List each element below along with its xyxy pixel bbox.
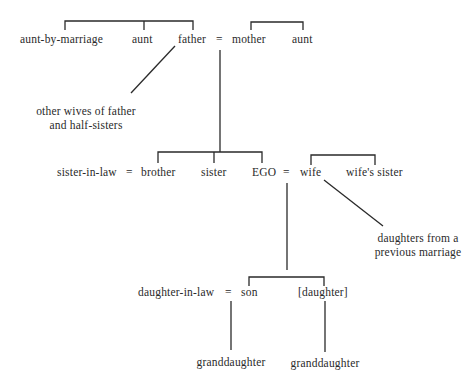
node-wifes-sister: wife's sister bbox=[346, 166, 403, 179]
marriage-sign-son: = bbox=[225, 286, 232, 299]
node-father: father bbox=[178, 33, 206, 46]
marriage-sign-parents: = bbox=[216, 33, 223, 46]
annotation-other-wives-line1: other wives of father bbox=[36, 105, 136, 118]
node-aunt-by-marriage: aunt-by-marriage bbox=[20, 33, 103, 46]
node-mother: mother bbox=[232, 33, 266, 46]
node-granddaughter-1: granddaughter bbox=[196, 356, 265, 369]
node-ego: EGO bbox=[252, 166, 276, 179]
node-daughter-in-law: daughter-in-law bbox=[138, 286, 214, 299]
node-sister-in-law: sister-in-law bbox=[57, 166, 117, 179]
ego-sibling-bracket bbox=[158, 152, 262, 163]
node-daughter: [daughter] bbox=[298, 286, 348, 299]
annotation-prev-marriage-line1: daughters from a bbox=[377, 232, 458, 245]
children-bracket bbox=[249, 277, 324, 286]
father-annotation-link bbox=[131, 46, 175, 93]
node-son: son bbox=[241, 286, 258, 299]
node-granddaughter-2: granddaughter bbox=[290, 357, 359, 370]
marriage-sign-ego: = bbox=[283, 166, 290, 179]
node-maternal-aunt: aunt bbox=[292, 33, 313, 46]
annotation-prev-marriage-line2: previous marriage bbox=[375, 246, 462, 259]
annotation-other-wives-line2: and half-sisters bbox=[49, 119, 122, 132]
node-brother: brother bbox=[141, 166, 176, 179]
maternal-sibling-bracket bbox=[251, 22, 303, 30]
node-paternal-aunt: aunt bbox=[132, 33, 153, 46]
wife-sibling-bracket bbox=[311, 155, 375, 165]
paternal-sibling-bracket bbox=[65, 21, 193, 30]
kinship-lines bbox=[0, 0, 475, 391]
marriage-sign-brother: = bbox=[126, 166, 133, 179]
node-sister: sister bbox=[201, 166, 226, 179]
node-wife: wife bbox=[300, 166, 321, 179]
wife-annotation-link bbox=[324, 180, 383, 226]
